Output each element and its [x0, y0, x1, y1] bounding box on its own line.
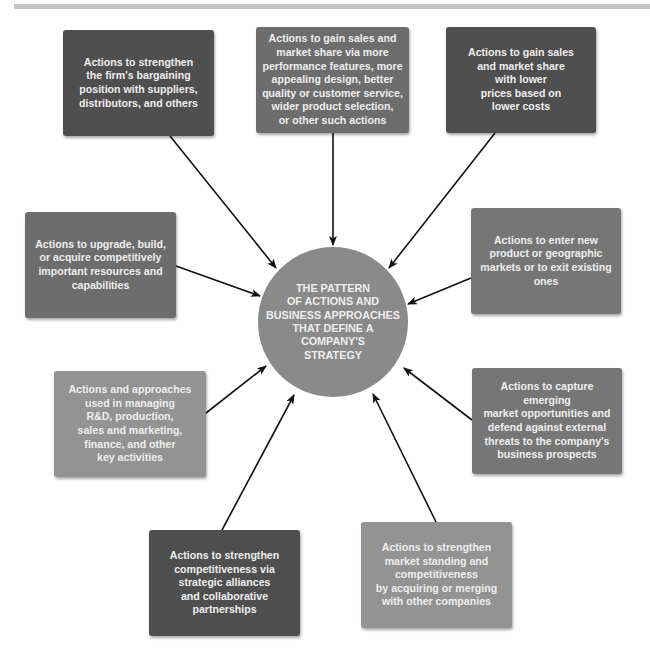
node-label: Actions to strengthen the firm's bargain…	[79, 56, 198, 110]
node-bargaining: Actions to strengthen the firm's bargain…	[63, 30, 214, 136]
node-alliances: Actions to strengthen competitiveness vi…	[149, 530, 300, 636]
arrow-bargaining	[170, 136, 276, 268]
arrow-resources	[176, 266, 260, 296]
node-label: Actions to enter new product or geograph…	[480, 234, 611, 288]
center-label: THE PATTERN OF ACTIONS AND BUSINESS APPR…	[266, 282, 400, 362]
node-functional: Actions and approaches used in managing …	[54, 371, 206, 477]
arrow-opportunities	[404, 368, 472, 420]
node-label: Actions to strengthen competitiveness vi…	[170, 549, 279, 617]
node-label: Actions to gain sales and market share v…	[262, 32, 403, 127]
center-strategy-circle: THE PATTERN OF ACTIONS AND BUSINESS APPR…	[258, 247, 408, 397]
node-opportunities: Actions to capture emerging market oppor…	[472, 368, 622, 474]
node-resources: Actions to upgrade, build, or acquire co…	[25, 212, 176, 318]
node-label: Actions and approaches used in managing …	[68, 383, 191, 465]
arrow-alliances	[222, 395, 294, 530]
arrow-markets	[408, 278, 471, 304]
arrow-functional	[206, 366, 266, 413]
node-label: Actions to upgrade, build, or acquire co…	[35, 238, 166, 292]
arrow-mergers	[373, 394, 436, 522]
node-differentiation: Actions to gain sales and market share v…	[256, 27, 409, 133]
node-label: Actions to capture emerging market oppor…	[478, 380, 616, 462]
node-low-cost: Actions to gain sales and market share w…	[446, 27, 596, 133]
node-label: Actions to strengthen market standing an…	[376, 541, 497, 609]
node-markets: Actions to enter new product or geograph…	[471, 208, 621, 314]
node-mergers: Actions to strengthen market standing an…	[361, 522, 512, 628]
node-label: Actions to gain sales and market share w…	[468, 46, 574, 114]
